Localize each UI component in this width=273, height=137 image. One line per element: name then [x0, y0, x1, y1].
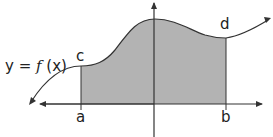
point-label-c: c	[76, 47, 84, 65]
point-label-a: a	[76, 108, 85, 126]
curve-left-arrow-icon	[29, 97, 36, 105]
point-label-d: d	[220, 15, 230, 33]
function-label: y = f (x)	[5, 57, 67, 75]
point-label-b: b	[221, 108, 231, 126]
area-under-curve-diagram: y = f (x) c d a b	[0, 0, 273, 137]
